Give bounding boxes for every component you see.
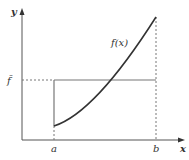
b-tick-label: b [153,143,159,154]
curve-label: f(x) [110,37,128,48]
mean-value-diagram: y x f̄ f(x) a b [0,0,189,160]
a-tick-label: a [51,143,57,154]
x-axis-label: x [179,143,187,154]
function-curve [54,17,156,126]
fbar-label: f̄ [6,75,13,86]
y-axis-label: y [10,6,18,17]
x-axis-arrow-icon [178,138,185,143]
y-axis-arrow-icon [20,8,25,15]
